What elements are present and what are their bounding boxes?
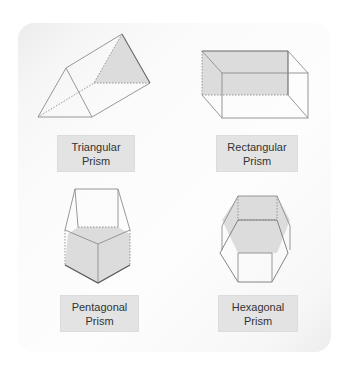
- label-line-1: Hexagonal: [232, 300, 285, 314]
- label-line-2: Prism: [243, 154, 271, 168]
- label-line-2: Prism: [244, 314, 272, 328]
- hexagonal-prism-figure: [220, 196, 290, 282]
- label-line-2: Prism: [82, 154, 110, 168]
- label-line-1: Triangular: [71, 140, 120, 154]
- rectangular-prism-label: Rectangular Prism: [216, 135, 298, 172]
- label-line-2: Prism: [85, 314, 113, 328]
- label-line-1: Rectangular: [227, 140, 286, 154]
- triangular-prism-figure: [38, 34, 150, 117]
- hexagonal-prism-label: Hexagonal Prism: [218, 295, 298, 332]
- pentagonal-prism-figure: [65, 189, 130, 283]
- label-line-1: Pentagonal: [72, 300, 128, 314]
- triangular-prism-label: Triangular Prism: [57, 135, 135, 172]
- rectangular-prism-figure: [202, 51, 308, 118]
- pentagonal-prism-label: Pentagonal Prism: [60, 295, 139, 332]
